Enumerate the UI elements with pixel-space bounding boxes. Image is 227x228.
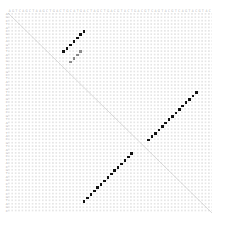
match-dot: [161, 125, 164, 128]
match-dot: [69, 44, 72, 47]
match-dot-layer: [8, 13, 212, 213]
match-dot: [103, 180, 106, 183]
match-dot: [110, 173, 113, 176]
match-dot: [100, 183, 103, 186]
match-dot: [90, 193, 93, 196]
match-dot: [175, 112, 178, 115]
match-dot: [158, 129, 161, 132]
match-dot: [83, 200, 86, 203]
match-dot: [124, 159, 127, 162]
match-dot: [76, 54, 79, 57]
match-dot: [96, 186, 99, 189]
match-dot: [181, 105, 184, 108]
match-dot: [69, 61, 72, 64]
match-dot: [79, 33, 82, 36]
match-dot: [164, 122, 167, 125]
dotplot-figure: AGTCAGCTAAGCTGACTGCATGACTAGCTGACGTACTGAC…: [0, 0, 227, 228]
match-dot: [171, 115, 174, 118]
match-dot: [188, 98, 191, 101]
match-dot: [151, 135, 154, 138]
match-dot: [86, 197, 89, 200]
match-dot: [178, 108, 181, 111]
match-dot: [107, 176, 110, 179]
match-dot: [66, 47, 69, 50]
match-dot: [79, 50, 82, 53]
match-dot: [192, 95, 195, 98]
match-dot: [93, 190, 96, 193]
match-dot: [195, 91, 198, 94]
match-dot: [62, 50, 65, 53]
match-dot: [147, 139, 150, 142]
match-dot: [120, 163, 123, 166]
match-dot: [73, 40, 76, 43]
match-dot: [185, 101, 188, 104]
match-dot: [73, 57, 76, 60]
match-dot: [168, 118, 171, 121]
match-dot: [117, 166, 120, 169]
plot-area[interactable]: [8, 13, 212, 213]
match-dot: [127, 156, 130, 159]
match-dot: [113, 169, 116, 172]
match-dot: [83, 30, 86, 33]
match-dot: [130, 152, 133, 155]
match-dot: [154, 132, 157, 135]
match-dot: [76, 37, 79, 40]
